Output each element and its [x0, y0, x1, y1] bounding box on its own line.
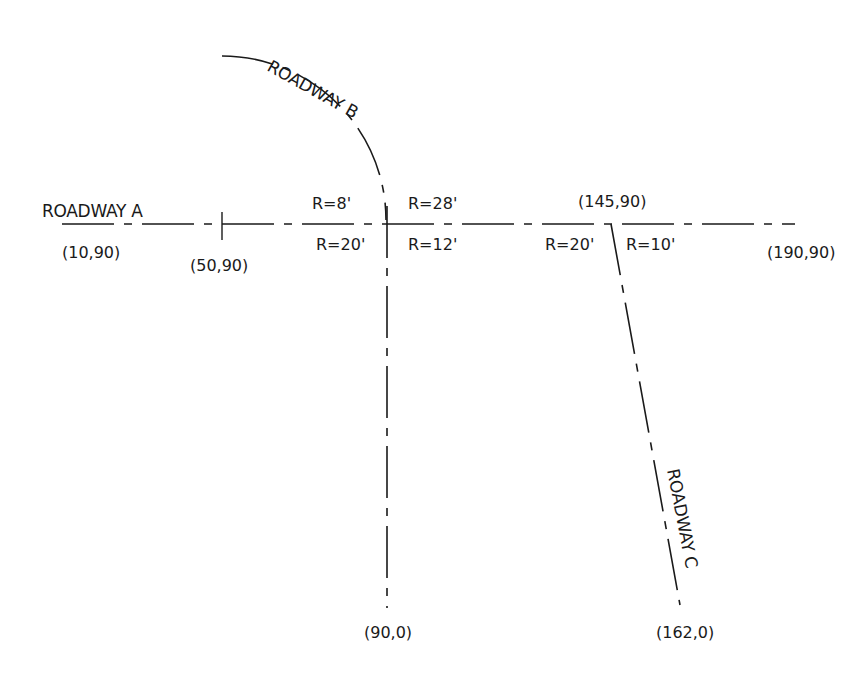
roadway-b: ROADWAY B (90,0): [222, 56, 412, 642]
radii-intersection-ac: R=20' R=10': [545, 235, 675, 254]
radius-label-ab-upper-right: R=28': [408, 194, 457, 213]
roadway-a-start-coord: (10,90): [62, 243, 120, 262]
radius-label-ac-left: R=20': [545, 235, 594, 254]
roadway-a-end-coord: (190,90): [767, 243, 835, 262]
roadway-c-intersection-coord: (145,90): [578, 192, 646, 211]
roadway-c-centerline: [611, 224, 680, 605]
roadway-a-mid-coord: (50,90): [190, 256, 248, 275]
radius-label-ac-right: R=10': [626, 235, 675, 254]
roadway-b-label: ROADWAY B: [264, 56, 362, 122]
radius-label-ab-lower-right: R=12': [408, 235, 457, 254]
roadway-c-end-coord: (162,0): [656, 623, 714, 642]
roadway-c: ROADWAY C (145,90) (162,0): [578, 192, 714, 642]
radius-label-ab-lower-left: R=20': [316, 235, 365, 254]
radius-label-ab-upper-left: R=8': [312, 194, 351, 213]
roadway-intersection-diagram: ROADWAY A (10,90) (50,90) (190,90) ROADW…: [0, 0, 867, 675]
roadway-b-end-coord: (90,0): [364, 623, 412, 642]
roadway-c-label: ROADWAY C: [663, 467, 702, 570]
roadway-a-label: ROADWAY A: [42, 201, 143, 221]
